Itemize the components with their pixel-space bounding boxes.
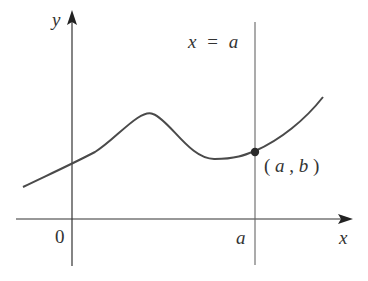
vertical-line-label-a: a (229, 31, 239, 52)
a-tick-label: a (236, 227, 246, 248)
vertical-line-label-equals: = (207, 31, 218, 52)
function-graph-diagram: y x = a ( a , b ) 0 a x (0, 0, 368, 281)
origin-label: 0 (55, 226, 65, 247)
y-axis (67, 10, 77, 266)
point-label: ( a , b ) (264, 155, 319, 177)
point-label-open-paren: ( (264, 155, 270, 177)
x-axis-label: x (338, 227, 348, 248)
vertical-line-label-x: x (187, 31, 197, 52)
point-label-a: a (275, 155, 285, 176)
y-axis-label: y (50, 9, 61, 30)
x-axis (16, 214, 353, 224)
point-a-b (251, 148, 259, 156)
point-label-b: b (299, 155, 309, 176)
point-label-comma: , (289, 155, 299, 176)
vertical-line-label: x = a (187, 31, 238, 52)
point-label-close-paren: ) (313, 155, 319, 177)
